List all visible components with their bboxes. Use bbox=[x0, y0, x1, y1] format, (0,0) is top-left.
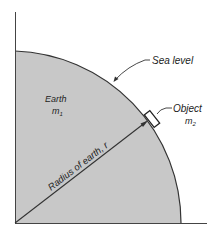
object-leader bbox=[157, 108, 172, 114]
object-mass-subscript: 2 bbox=[192, 121, 197, 127]
sea-level-label: Sea level bbox=[152, 55, 194, 66]
sea-level-leader bbox=[115, 60, 150, 80]
earth-mass-subscript: 1 bbox=[60, 111, 63, 117]
object-label: Object bbox=[173, 103, 203, 114]
earth-gravity-diagram: Sea level Earth m1 Object m2 Radius of e… bbox=[0, 0, 223, 233]
object-mass-label: m2 bbox=[185, 116, 197, 127]
earth-quarter-disk bbox=[15, 51, 181, 223]
earth-label: Earth bbox=[45, 94, 67, 104]
